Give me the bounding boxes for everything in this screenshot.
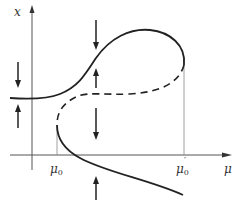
middle-unstable-branch — [57, 65, 184, 125]
lower-stable-branch — [57, 125, 183, 195]
x-axis-arrowhead — [222, 153, 232, 158]
mu0-prime-tick-label: μ0′ — [176, 163, 189, 177]
mu0-tick-label: μ0 — [50, 163, 63, 177]
bifurcation-diagram — [0, 0, 246, 206]
x-axis-label: μ — [224, 163, 232, 175]
y-axis-arrowhead — [30, 5, 35, 13]
y-axis-label: x — [14, 6, 21, 18]
